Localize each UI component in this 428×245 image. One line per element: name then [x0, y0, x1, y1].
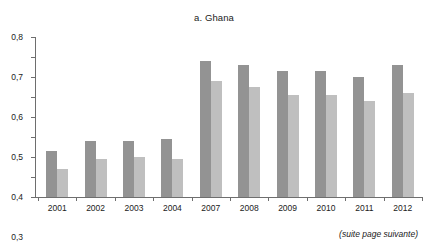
y-tick-label: 0,6 — [11, 112, 23, 122]
y-tick-label: 0,3 — [11, 232, 23, 242]
x-tick-mark — [115, 197, 116, 201]
y-tick-mark: 0 — [31, 197, 35, 198]
y-tick-mark: 0,4 — [31, 117, 35, 118]
continuation-note: (suite page suivante) — [339, 229, 418, 239]
bar — [96, 159, 107, 197]
x-tick-mark — [38, 197, 39, 201]
bar — [161, 139, 172, 197]
bar — [364, 101, 375, 197]
y-tick-mark: 0,5 — [31, 97, 35, 98]
bar — [46, 151, 57, 197]
bar — [249, 87, 260, 197]
x-tick-label: 2007 — [201, 203, 220, 213]
x-tick-label: 2012 — [393, 203, 412, 213]
x-tick-mark — [153, 197, 154, 201]
bar — [315, 71, 326, 197]
bar — [123, 141, 134, 197]
x-tick-label: 2010 — [317, 203, 336, 213]
bar — [211, 81, 222, 197]
bar — [353, 77, 364, 197]
bar — [288, 95, 299, 197]
x-tick-label: 2008 — [240, 203, 259, 213]
x-tick-mark — [384, 197, 385, 201]
x-tick-mark — [307, 197, 308, 201]
bar — [326, 95, 337, 197]
x-tick-label: 2002 — [86, 203, 105, 213]
y-tick-mark: 0,1 — [31, 177, 35, 178]
x-tick-mark — [192, 197, 193, 201]
bar — [403, 93, 414, 197]
y-tick-label: 0,4 — [11, 192, 23, 202]
chart-title: a. Ghana — [0, 12, 428, 23]
bar — [85, 141, 96, 197]
x-tick-label: 2003 — [125, 203, 144, 213]
x-tick-mark — [345, 197, 346, 201]
bar — [57, 169, 68, 197]
y-tick-mark: 0,3 — [31, 137, 35, 138]
x-tick-label: 2004 — [163, 203, 182, 213]
y-tick-label: 0,7 — [11, 72, 23, 82]
plot-area: 00,10,20,30,40,50,60,70,8 20012002200320… — [38, 37, 422, 197]
chart-figure: a. Ghana 00,10,20,30,40,50,60,70,8 20012… — [0, 0, 428, 245]
x-tick-mark — [230, 197, 231, 201]
bar — [277, 71, 288, 197]
x-tick-label: 2009 — [278, 203, 297, 213]
bar — [200, 61, 211, 197]
y-axis-line — [35, 37, 36, 198]
bar — [392, 65, 403, 197]
y-tick-mark: 0,2 — [31, 157, 35, 158]
x-tick-mark — [268, 197, 269, 201]
y-tick-mark: 0,7 — [31, 57, 35, 58]
y-tick-mark: 0,8 — [31, 37, 35, 38]
x-tick-mark — [76, 197, 77, 201]
y-tick-mark: 0,6 — [31, 77, 35, 78]
x-tick-label: 2001 — [48, 203, 67, 213]
y-tick-label: 0,5 — [11, 152, 23, 162]
bar — [134, 157, 145, 197]
y-tick-label: 0,8 — [11, 32, 23, 42]
x-tick-label: 2011 — [355, 203, 373, 213]
bar — [172, 159, 183, 197]
bar — [238, 65, 249, 197]
x-tick-mark — [422, 197, 423, 201]
x-axis-line — [35, 197, 422, 198]
